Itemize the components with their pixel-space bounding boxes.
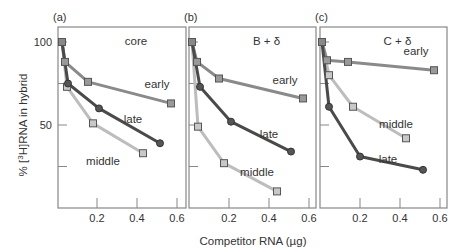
marker-square <box>195 123 202 130</box>
markers-late: late <box>319 39 427 174</box>
marker-square <box>189 39 196 46</box>
marker-square <box>194 58 201 65</box>
series-label-late: late <box>124 113 143 125</box>
markers-middle: middle <box>319 39 413 142</box>
panel-frame <box>58 27 186 208</box>
panel-b: (b)B + δ0.20.40.6middleearlylate <box>184 11 317 224</box>
x-tick-label: 0.2 <box>352 212 367 224</box>
panel-letter: (b) <box>184 11 197 23</box>
x-axis-label: Competitor RNA (µg) <box>200 235 307 247</box>
y-axis-title: % [3H]RNA in hybrid <box>16 74 29 177</box>
chart-canvas: (a)core100500.20.40.6middleearlylate(b)B… <box>0 0 465 252</box>
markers-late: late <box>59 39 164 147</box>
x-tick-label: 0.6 <box>432 212 447 224</box>
marker-square <box>326 72 333 79</box>
marker-square <box>274 188 281 195</box>
series-early <box>192 42 303 98</box>
figure: (a)core100500.20.40.6middleearlylate(b)B… <box>0 0 465 252</box>
marker-square <box>431 67 438 74</box>
marker-square <box>350 103 357 110</box>
marker-circle <box>157 140 164 147</box>
series-line <box>62 42 160 143</box>
x-tick-label: 0.6 <box>169 212 184 224</box>
y-tick-label: 100 <box>34 36 52 48</box>
series-line <box>62 42 143 153</box>
series-label-middle: middle <box>379 118 413 130</box>
marker-square <box>85 78 92 85</box>
panel-frame <box>189 27 316 208</box>
y-tick-label: 50 <box>40 119 52 131</box>
series-label-early: early <box>273 74 298 86</box>
x-tick-label: 0.2 <box>221 212 236 224</box>
marker-square <box>168 100 175 107</box>
marker-square <box>403 135 410 142</box>
x-tick-label: 0.4 <box>129 212 144 224</box>
series-label-middle: middle <box>240 166 274 178</box>
marker-circle <box>288 148 295 155</box>
marker-square <box>216 75 223 82</box>
marker-square <box>90 120 97 127</box>
series-line <box>192 42 303 98</box>
marker-square <box>221 160 228 167</box>
series-label-late: late <box>260 128 279 140</box>
panel-c: (c)C + δ0.20.40.6middleearlylate <box>315 11 448 224</box>
marker-circle <box>65 80 72 87</box>
series-label-late: late <box>379 153 398 165</box>
series-middle <box>62 42 143 153</box>
marker-square <box>59 39 66 46</box>
marker-circle <box>326 103 333 110</box>
panel-letter: (c) <box>315 11 328 23</box>
panel-letter: (a) <box>53 11 66 23</box>
series-label-early: early <box>404 45 429 57</box>
marker-circle <box>357 153 364 160</box>
marker-square <box>319 39 326 46</box>
marker-square <box>140 150 147 157</box>
marker-circle <box>228 118 235 125</box>
marker-square <box>300 95 307 102</box>
marker-circle <box>96 105 103 112</box>
series-label-early: early <box>145 78 170 90</box>
panel-title: core <box>125 35 147 47</box>
x-tick-label: 0.6 <box>301 212 316 224</box>
series-early <box>62 42 171 103</box>
marker-square <box>324 57 331 64</box>
x-tick-label: 0.2 <box>89 212 104 224</box>
panel-a: (a)core100500.20.40.6middleearlylate <box>34 11 186 224</box>
marker-square <box>345 58 352 65</box>
y-axis-label: % [3H]RNA in hybrid <box>16 74 29 177</box>
panels: (a)core100500.20.40.6middleearlylate(b)B… <box>34 11 448 224</box>
markers-middle: middle <box>189 39 281 195</box>
series-line <box>62 42 171 103</box>
x-tick-label: 0.4 <box>261 212 276 224</box>
x-tick-label: 0.4 <box>392 212 407 224</box>
marker-circle <box>420 166 427 173</box>
marker-square <box>62 58 69 65</box>
series-late <box>62 42 160 143</box>
series-label-middle: middle <box>86 155 120 167</box>
marker-circle <box>197 83 204 90</box>
panel-title: B + δ <box>253 35 280 47</box>
